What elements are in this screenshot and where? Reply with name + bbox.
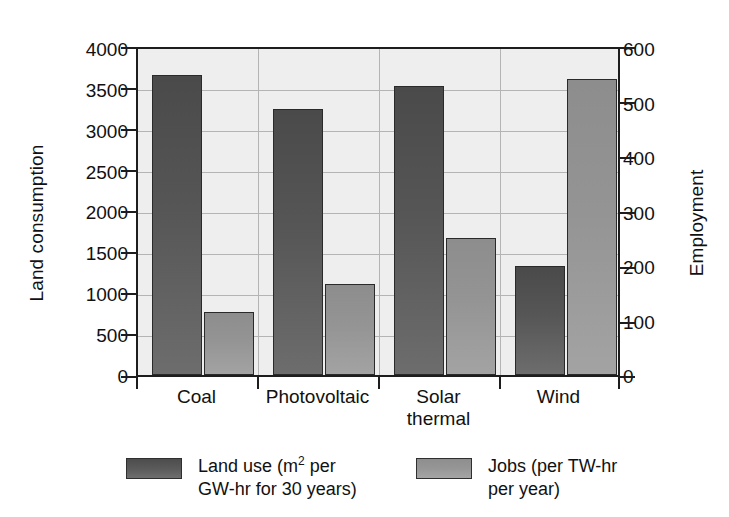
legend-swatch-land-use <box>126 458 182 479</box>
y-tick-left-2500: 2500 <box>86 163 128 182</box>
gridline-category-1 <box>258 49 259 375</box>
bar-coal-jobs <box>204 312 254 375</box>
y-axis-left-ticks: 4000 3500 3000 2500 2000 1500 1000 500 0 <box>50 0 128 517</box>
y-tick-left-3500: 3500 <box>86 81 128 100</box>
bar-wind-land-use <box>515 266 565 375</box>
tickmark-left-3000 <box>121 129 136 131</box>
bar-photovoltaic-land-use <box>273 109 323 375</box>
legend-label-land-use-part2: per <box>305 456 336 476</box>
y-axis-left-title: Land consumption <box>26 123 48 323</box>
legend-entry-jobs: Jobs (per TW-hrper year) <box>416 455 617 501</box>
y-tick-right-600: 600 <box>623 40 655 59</box>
gridline-1500 <box>138 254 618 255</box>
legend-label-land-use-superscript: 2 <box>298 454 305 468</box>
bar-wind-jobs <box>567 79 617 375</box>
gridline-3000 <box>138 131 618 132</box>
tickmark-left-2000 <box>121 211 136 213</box>
bar-coal-land-use <box>152 75 202 375</box>
tickmark-right-300 <box>620 212 635 214</box>
tickmark-right-500 <box>620 102 635 104</box>
legend-label-land-use-line2: GW-hr for 30 years) <box>198 479 357 499</box>
y-tick-left-3000: 3000 <box>86 122 128 141</box>
y-axis-right-ticks: 600 500 400 300 200 100 0 <box>623 0 693 517</box>
legend-label-jobs-line2: per year) <box>488 479 560 499</box>
legend-label-land-use: Land use (m2 perGW-hr for 30 years) <box>198 455 357 501</box>
tickmark-right-200 <box>620 267 635 269</box>
tickmark-right-100 <box>620 322 635 324</box>
legend-label-land-use-part1: Land use (m <box>198 456 298 476</box>
tickmark-left-4000 <box>121 47 136 49</box>
chart-legend: Land use (m2 perGW-hr for 30 years) Jobs… <box>126 455 646 510</box>
legend-entry-land-use: Land use (m2 perGW-hr for 30 years) <box>126 455 357 501</box>
tickmark-left-500 <box>121 334 136 336</box>
tickmark-right-400 <box>620 157 635 159</box>
gridline-category-3 <box>500 49 501 375</box>
gridline-2000 <box>138 213 618 214</box>
x-category-label-coal: Coal <box>136 386 257 408</box>
legend-label-jobs-part1: Jobs (per TW-hr <box>488 456 617 476</box>
bar-photovoltaic-jobs <box>325 284 375 375</box>
tickmark-right-600 <box>620 47 635 49</box>
legend-label-jobs: Jobs (per TW-hrper year) <box>488 455 617 501</box>
tickmark-left-0 <box>121 376 136 378</box>
tickmark-left-1000 <box>121 293 136 295</box>
x-category-label-wind: Wind <box>499 386 618 408</box>
gridline-3500 <box>138 90 618 91</box>
tickmark-left-3500 <box>121 88 136 90</box>
tickmark-right-0 <box>620 376 635 378</box>
legend-swatch-jobs <box>416 458 472 479</box>
bar-solar-thermal-land-use <box>394 86 444 375</box>
tickmark-left-1500 <box>121 252 136 254</box>
x-category-label-solar-thermal: Solar thermal <box>378 386 499 430</box>
tickmark-x-4 <box>618 377 620 389</box>
plot-area <box>136 47 620 377</box>
y-tick-left-4000: 4000 <box>86 40 128 59</box>
tickmark-left-2500 <box>121 170 136 172</box>
gridline-category-2 <box>379 49 380 375</box>
bar-solar-thermal-jobs <box>446 238 496 375</box>
x-category-label-photovoltaic: Photovoltaic <box>257 386 378 408</box>
chart-figure: Land consumption Employment 4000 3500 30… <box>0 0 729 517</box>
gridline-2500 <box>138 172 618 173</box>
y-tick-right-500: 500 <box>623 95 655 114</box>
